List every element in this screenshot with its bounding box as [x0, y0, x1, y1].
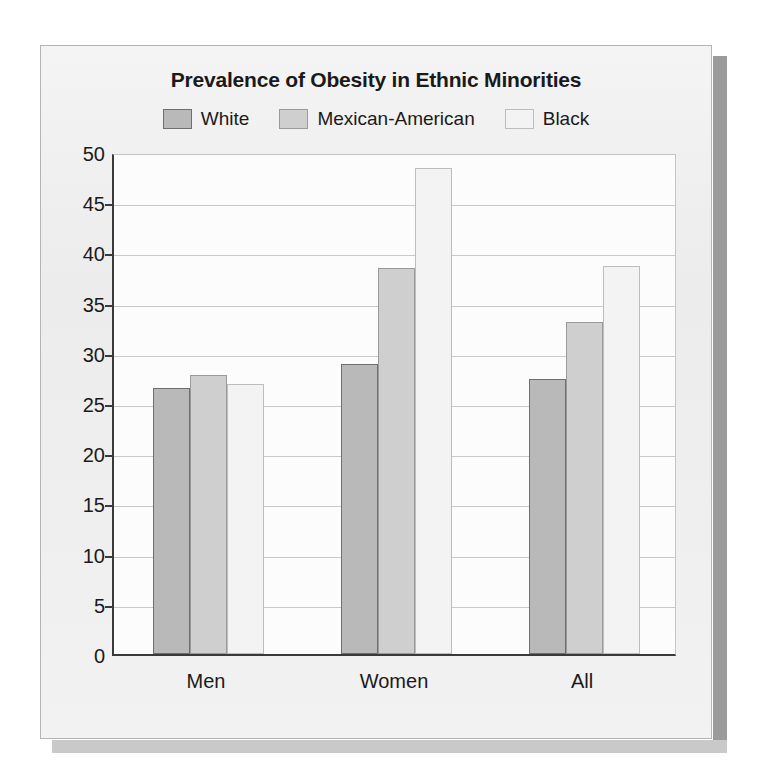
bar [378, 268, 415, 654]
chart-figure: Prevalence of Obesity in Ethnic Minoriti… [40, 45, 712, 739]
y-axis-tick-label: 10 [65, 544, 105, 567]
plot-wrapper: 05101520253035404550 MenWomenAll [41, 154, 711, 738]
y-axis-tick-mark [105, 505, 114, 507]
y-axis-tick-mark [105, 204, 114, 206]
bar [341, 364, 378, 654]
y-axis-tick-label: 50 [65, 143, 105, 166]
x-axis-tick-label: All [571, 670, 593, 693]
y-axis-tick-label: 40 [65, 243, 105, 266]
y-axis-tick-label: 35 [65, 293, 105, 316]
legend-item-black[interactable]: Black [505, 108, 589, 130]
legend-label: White [201, 108, 250, 130]
y-axis-tick-mark [105, 455, 114, 457]
y-axis-tick-label: 0 [65, 645, 105, 668]
chart-title: Prevalence of Obesity in Ethnic Minoriti… [41, 68, 711, 92]
legend-swatch-icon [279, 109, 308, 129]
y-axis-tick-mark [105, 606, 114, 608]
y-axis-tick-label: 25 [65, 394, 105, 417]
figure-drop-shadow-bottom [52, 740, 727, 753]
y-axis-tick-mark [105, 355, 114, 357]
legend-item-mexican-american[interactable]: Mexican-American [279, 108, 474, 130]
bar [529, 379, 566, 654]
bar [603, 266, 640, 654]
bar [566, 322, 603, 654]
y-axis-tick-labels: 05101520253035404550 [61, 154, 105, 656]
figure-drop-shadow-right [713, 56, 727, 740]
y-axis-tick-mark [105, 556, 114, 558]
y-axis-tick-label: 30 [65, 343, 105, 366]
bars-layer [114, 155, 675, 654]
bar [227, 384, 264, 654]
y-axis-tick-mark [105, 405, 114, 407]
y-axis-tick-mark [105, 254, 114, 256]
y-axis-tick-label: 20 [65, 444, 105, 467]
chart-legend: WhiteMexican-AmericanBlack [41, 108, 711, 130]
y-axis-tick-label: 5 [65, 594, 105, 617]
y-axis-tick-label: 15 [65, 494, 105, 517]
legend-swatch-icon [505, 109, 534, 129]
bar [153, 388, 190, 654]
bar [415, 168, 452, 654]
y-axis-tick-mark [105, 305, 114, 307]
y-axis-tick-label: 45 [65, 193, 105, 216]
x-axis-tick-label: Men [187, 670, 226, 693]
legend-label: Black [543, 108, 589, 130]
legend-label: Mexican-American [317, 108, 474, 130]
plot-area [112, 154, 676, 656]
legend-swatch-icon [163, 109, 192, 129]
x-axis-tick-labels: MenWomenAll [112, 670, 676, 700]
bar [190, 375, 227, 654]
x-axis-tick-label: Women [360, 670, 429, 693]
legend-item-white[interactable]: White [163, 108, 250, 130]
